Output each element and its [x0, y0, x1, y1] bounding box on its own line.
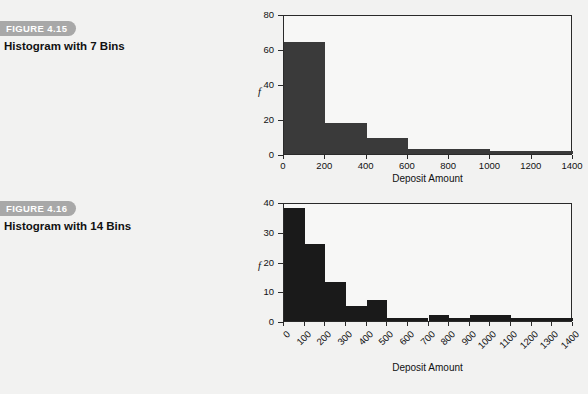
chart1-xtick — [489, 322, 490, 326]
chart1-x-axis-title: Deposit Amount — [283, 362, 572, 373]
chart0-bars — [284, 16, 571, 154]
chart0-ytick — [278, 50, 283, 51]
chart1-bars — [284, 204, 571, 321]
chart1-xtick — [407, 322, 408, 326]
chart0-xtick — [366, 155, 367, 159]
chart1-xtick — [345, 322, 346, 326]
bar-1000-1200 — [490, 151, 531, 155]
chart1-ytick — [278, 263, 283, 264]
chart1-xtick — [366, 322, 367, 326]
chart1-ytick-label: 30 — [247, 228, 274, 237]
chart0-xtick-label: 600 — [387, 161, 427, 170]
bar-700-800 — [429, 315, 450, 321]
bar-0-100 — [284, 208, 305, 321]
chart1-ytick — [278, 233, 283, 234]
histogram-14-bins: f 01020304001002003004005006007008009001… — [250, 198, 588, 394]
bar-800-900 — [449, 318, 470, 321]
bar-500-600 — [387, 318, 408, 321]
chart0-ytick-label: 20 — [247, 115, 274, 124]
bar-200-400 — [325, 123, 366, 155]
bar-0-200 — [284, 42, 325, 154]
chart0-xtick — [531, 155, 532, 159]
chart0-ytick — [278, 120, 283, 121]
chart0-xtick-label: 1400 — [552, 161, 588, 170]
chart0-ytick-label: 0 — [247, 150, 274, 159]
chart0-xtick — [572, 155, 573, 159]
textbook-figure-page: FIGURE 4.15 Histogram with 7 Bins FIGURE… — [0, 0, 588, 394]
chart0-ytick-label: 80 — [247, 10, 274, 19]
chart1-xtick — [448, 322, 449, 326]
bar-200-300 — [325, 282, 346, 321]
chart1-ytick — [278, 292, 283, 293]
chart0-ytick — [278, 85, 283, 86]
chart1-plot-area — [283, 203, 572, 322]
chart0-ytick-label: 60 — [247, 45, 274, 54]
bar-800-1000 — [449, 149, 490, 154]
figure-title-415: Histogram with 7 Bins — [4, 40, 125, 53]
chart1-xtick — [551, 322, 552, 326]
chart0-xtick-label: 400 — [346, 161, 386, 170]
bar-600-700 — [408, 318, 429, 321]
chart1-xtick — [469, 322, 470, 326]
figure-tag-415: FIGURE 4.15 — [0, 21, 76, 36]
chart1-xtick — [510, 322, 511, 326]
chart1-xtick — [304, 322, 305, 326]
figure-caption-416: FIGURE 4.16 Histogram with 14 Bins — [0, 198, 131, 233]
bar-400-500 — [367, 300, 388, 321]
chart1-ytick-label: 0 — [247, 317, 274, 326]
chart0-xtick-label: 0 — [263, 161, 303, 170]
chart0-xtick — [489, 155, 490, 159]
histogram-7-bins: f 0204060800200400600800100012001400 Dep… — [250, 10, 588, 190]
chart1-xtick — [386, 322, 387, 326]
bar-1200-1300 — [532, 318, 553, 321]
bar-400-600 — [367, 138, 408, 154]
chart0-plot-area — [283, 15, 572, 155]
figure-title-416: Histogram with 14 Bins — [4, 220, 131, 233]
bar-1000-1100 — [490, 315, 511, 321]
chart1-ytick-label: 10 — [247, 287, 274, 296]
chart0-xtick-label: 800 — [428, 161, 468, 170]
bar-1100-1200 — [511, 318, 532, 321]
chart0-ytick — [278, 15, 283, 16]
chart1-xtick — [531, 322, 532, 326]
bar-300-400 — [346, 306, 367, 321]
bar-100-200 — [305, 244, 326, 321]
chart1-xtick — [572, 322, 573, 326]
bar-1200-1400 — [532, 151, 573, 155]
chart0-xtick-label: 1000 — [469, 161, 509, 170]
chart1-ytick — [278, 203, 283, 204]
chart0-xtick — [283, 155, 284, 159]
chart1-ytick-label: 20 — [247, 258, 274, 267]
chart0-xtick — [448, 155, 449, 159]
chart1-ytick-label: 40 — [247, 198, 274, 207]
chart0-xtick — [324, 155, 325, 159]
bar-600-800 — [408, 149, 449, 154]
bar-1300-1400 — [552, 318, 573, 321]
chart1-xtick — [324, 322, 325, 326]
chart1-xtick — [428, 322, 429, 326]
bar-900-1000 — [470, 315, 491, 321]
chart0-x-axis-title: Deposit Amount — [283, 173, 572, 184]
figure-caption-415: FIGURE 4.15 Histogram with 7 Bins — [0, 18, 125, 53]
chart0-xtick-label: 200 — [304, 161, 344, 170]
chart0-xtick-label: 1200 — [511, 161, 551, 170]
chart0-xtick — [407, 155, 408, 159]
chart1-xtick — [283, 322, 284, 326]
chart0-ytick-label: 40 — [247, 80, 274, 89]
figure-tag-416: FIGURE 4.16 — [0, 201, 76, 216]
